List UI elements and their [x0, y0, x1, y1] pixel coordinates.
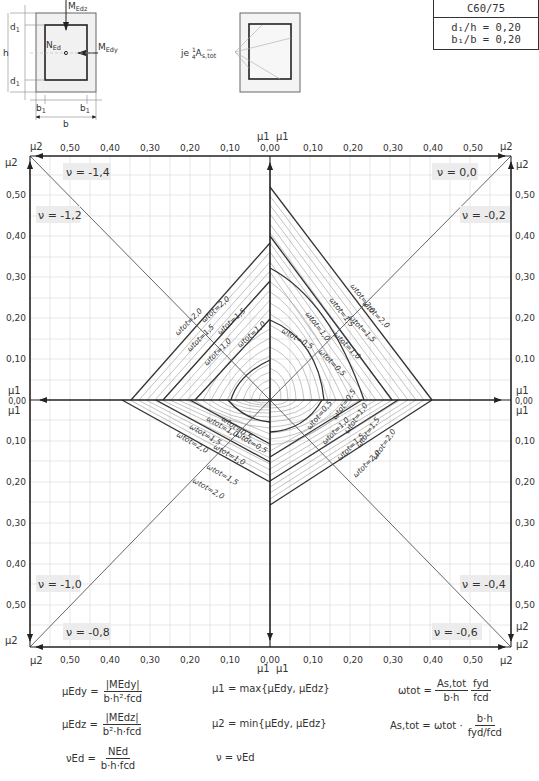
interaction-chart: MEdz MEdy NEd h d1 d1 b1 b1 b je 14As,to… [0, 0, 539, 781]
left-tick-labels: 0,50 0,40 0,30 0,20 0,10 0,00 0,10 0,20 … [6, 190, 26, 610]
svg-text:0,30: 0,30 [383, 143, 403, 153]
cross-section-diagram: MEdz MEdy NEd h d1 d1 b1 b1 b [3, 0, 118, 129]
svg-text:0,10: 0,10 [6, 354, 26, 364]
d1-bottom-label: d1 [10, 76, 20, 88]
svg-text:0,20: 0,20 [6, 313, 26, 323]
svg-text:0,40: 0,40 [6, 559, 26, 569]
svg-text:μ1: μ1 [276, 663, 289, 674]
svg-text:ωtot=2,0: ωtot=2,0 [191, 476, 226, 501]
svg-text:ωtot=1,0: ωtot=1,0 [235, 319, 267, 349]
svg-text:0,10: 0,10 [515, 436, 535, 446]
svg-text:0,10: 0,10 [515, 354, 535, 364]
svg-text:0,20: 0,20 [180, 143, 200, 153]
right-tick-labels: 0,50 0,40 0,30 0,20 0,10 0,00 0,10 0,20 … [515, 190, 535, 610]
reinforcement-note: je 14As,tot [180, 46, 217, 60]
svg-text:0,40: 0,40 [515, 559, 535, 569]
svg-text:0,10: 0,10 [303, 655, 323, 665]
svg-text:μ1: μ1 [8, 385, 21, 396]
nu-label-minus-1-0: ν = -1,0 [38, 578, 82, 591]
svg-text:μ2: μ2 [500, 141, 513, 152]
svg-text:0,40: 0,40 [100, 655, 120, 665]
svg-text:0,50: 0,50 [515, 600, 535, 610]
contour-family-top-left [139, 252, 270, 400]
svg-text:0,30: 0,30 [515, 518, 535, 528]
svg-text:0,40: 0,40 [423, 655, 443, 665]
svg-text:μ2: μ2 [30, 655, 43, 666]
d1-top-label: d1 [10, 22, 20, 34]
svg-text:0,30: 0,30 [6, 272, 26, 282]
reinforcement-diagram: je 14As,tot [180, 13, 300, 92]
nu-label-minus-1-4: ν = -1,4 [66, 166, 110, 179]
nu-label-0-0: ν = 0,0 [437, 166, 477, 179]
svg-text:μ1: μ1 [516, 385, 529, 396]
concrete-class: C60/75 [434, 0, 538, 18]
formula-mu2: μ2 = min{μEdy, μEdz} [212, 718, 327, 729]
formula-omega-tot: ωtot = As,totb·h fydfcd [398, 677, 491, 704]
svg-text:0,10: 0,10 [220, 655, 240, 665]
omega-labels: ωtot=2,0 ωtot=1,5 ωtot=1,0 ωtot=0,5 ωtot… [173, 282, 398, 502]
svg-text:μ2: μ2 [516, 159, 529, 170]
svg-text:0,30: 0,30 [6, 518, 26, 528]
b1-b-ratio: b₁/b = 0,20 [434, 33, 538, 45]
formula-as-tot: As,tot = ωtot · b·hfyd/fcd [390, 712, 504, 739]
svg-text:μ1: μ1 [8, 405, 21, 416]
svg-text:μ2: μ2 [30, 141, 43, 152]
d1-h-ratio: d₁/h = 0,20 [434, 21, 538, 33]
svg-text:0,10: 0,10 [6, 436, 26, 446]
svg-text:0,50: 0,50 [515, 190, 535, 200]
svg-text:0,30: 0,30 [140, 143, 160, 153]
svg-text:0,10: 0,10 [220, 143, 240, 153]
svg-text:0,20: 0,20 [6, 477, 26, 487]
svg-text:0,50: 0,50 [60, 655, 80, 665]
svg-text:0,40: 0,40 [515, 231, 535, 241]
svg-text:0,00: 0,00 [260, 143, 280, 153]
svg-text:μ1: μ1 [257, 663, 270, 674]
formula-nu-ed: νEd = NEdb·h·fcd [66, 745, 137, 772]
svg-text:0,20: 0,20 [180, 655, 200, 665]
svg-text:μ2: μ2 [516, 639, 529, 650]
svg-text:0,20: 0,20 [515, 313, 535, 323]
svg-text:μ2: μ2 [5, 635, 18, 646]
svg-text:0,20: 0,20 [343, 655, 363, 665]
h-label: h [3, 48, 9, 58]
svg-text:0,30: 0,30 [515, 272, 535, 282]
svg-text:0,50: 0,50 [6, 190, 26, 200]
svg-text:μ1: μ1 [257, 131, 270, 142]
svg-text:0,40: 0,40 [100, 143, 120, 153]
svg-text:μ2: μ2 [516, 621, 529, 632]
formula-mu1: μ1 = max{μEdy, μEdz} [212, 683, 330, 694]
nu-label-minus-1-2: ν = -1,2 [38, 209, 82, 222]
nu-label-minus-0-4: ν = -0,4 [462, 578, 506, 591]
svg-text:0,50: 0,50 [463, 655, 483, 665]
svg-text:0,20: 0,20 [515, 477, 535, 487]
formula-mu-edy: μEdy = |MEdy|b·h²·fcd [62, 678, 144, 705]
svg-text:ωtot=2,0: ωtot=2,0 [370, 427, 398, 461]
med-z-label: MEdz [68, 1, 88, 13]
nu-label-minus-0-6: ν = -0,6 [434, 626, 478, 639]
bottom-tick-labels: 0,50 0,40 0,30 0,20 0,10 0,00 0,10 0,20 … [60, 655, 483, 665]
svg-text:0,30: 0,30 [140, 655, 160, 665]
nu-label-minus-0-8: ν = -0,8 [66, 626, 110, 639]
svg-text:0,30: 0,30 [383, 655, 403, 665]
svg-text:0,40: 0,40 [423, 143, 443, 153]
formula-mu-edz: μEdz = |MEdz|b²·h·fcd [62, 711, 143, 738]
svg-text:ωtot=0,5: ωtot=0,5 [317, 347, 348, 378]
svg-text:μ2: μ2 [5, 157, 18, 168]
nu-label-minus-0-2: ν = -0,2 [462, 209, 506, 222]
svg-text:0,20: 0,20 [343, 143, 363, 153]
svg-text:μ2: μ2 [500, 655, 513, 666]
b1-right-label: b1 [80, 103, 90, 115]
formula-nu: ν = νEd [216, 752, 255, 763]
b1-left-label: b1 [36, 103, 46, 115]
svg-text:0,40: 0,40 [6, 231, 26, 241]
svg-text:0,50: 0,50 [60, 143, 80, 153]
med-y-label: MEdy [98, 42, 118, 54]
omega-contours [122, 187, 432, 505]
svg-text:μ1: μ1 [516, 405, 529, 416]
legend-box: C60/75 d₁/h = 0,20 b₁/b = 0,20 [433, 0, 539, 50]
svg-text:0,10: 0,10 [303, 143, 323, 153]
svg-text:0,50: 0,50 [6, 600, 26, 610]
b-label: b [63, 119, 69, 129]
svg-text:μ1: μ1 [276, 131, 289, 142]
top-tick-labels: 0,50 0,40 0,30 0,20 0,10 0,00 0,10 0,20 … [60, 143, 483, 153]
